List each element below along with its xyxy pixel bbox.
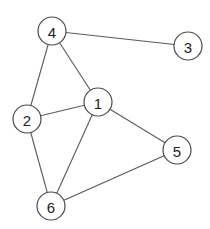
node-label: 4 <box>48 24 56 41</box>
node-5: 5 <box>163 136 191 164</box>
node-label: 5 <box>173 143 181 160</box>
edge-6-5 <box>51 150 177 206</box>
node-3: 3 <box>174 32 202 60</box>
node-label: 6 <box>47 199 55 216</box>
node-label: 3 <box>184 39 192 56</box>
node-6: 6 <box>37 192 65 220</box>
node-2: 2 <box>13 105 41 133</box>
node-label: 2 <box>23 112 31 129</box>
edge-4-3 <box>52 31 188 46</box>
edges-layer <box>27 31 188 206</box>
node-1: 1 <box>84 88 112 116</box>
graph-diagram: 123456 <box>0 0 210 229</box>
node-label: 1 <box>94 95 102 112</box>
nodes-layer: 123456 <box>13 17 202 220</box>
node-4: 4 <box>38 17 66 45</box>
edge-1-6 <box>51 102 98 206</box>
